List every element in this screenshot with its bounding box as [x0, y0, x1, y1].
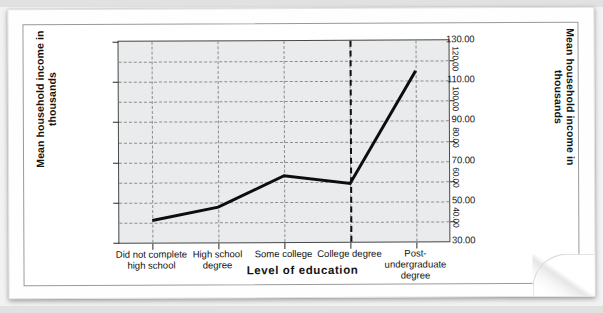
- series-polyline: [152, 71, 417, 221]
- y-tick-label-right: 80.00: [451, 127, 461, 147]
- y-axis-title-right: Mean household income in thousands: [552, 18, 577, 176]
- y-tick-label-right: 60.00: [451, 167, 461, 187]
- page-curl-corner: [532, 254, 594, 296]
- y-tick-label-right: 120.00: [451, 46, 461, 71]
- y-tick-label-left: 110.00: [427, 73, 475, 84]
- y-tick-label-left: 90.00: [427, 114, 475, 125]
- y-tick-label-right: 100.00: [451, 87, 461, 112]
- y-tick-label-left: 70.00: [427, 154, 475, 165]
- y-tick-label-right: 40.00: [451, 207, 461, 227]
- chart-figure: Mean household income in thousands Mean …: [22, 22, 579, 286]
- line-series: [119, 40, 450, 242]
- x-tick-label: Post- undergraduate degree: [367, 247, 463, 280]
- y-tick-label-left: 130.00: [426, 33, 474, 44]
- scan-artifact-band-bottom: [0, 306, 603, 313]
- scanned-page-background: Mean household income in thousands Mean …: [0, 0, 603, 313]
- axis-tick-labels: 30.0050.0070.0090.00110.00130.0040.0060.…: [23, 23, 577, 25]
- plot-inner: [119, 40, 450, 242]
- y-tick-label-left: 30.00: [427, 234, 475, 245]
- chart-page: Mean household income in thousands Mean …: [7, 7, 595, 300]
- scan-artifact-band-top: [0, 0, 603, 7]
- y-axis-title-left: Mean household income in thousands: [33, 20, 58, 178]
- plot-area: [118, 39, 451, 243]
- y-tick-label-left: 50.00: [427, 194, 475, 205]
- tick-mark-left: [113, 243, 119, 244]
